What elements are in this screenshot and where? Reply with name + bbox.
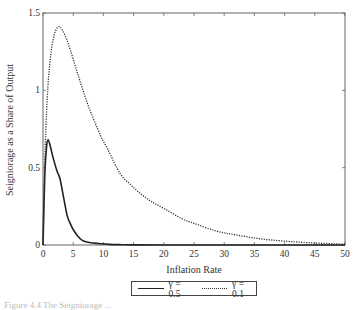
solid-line-swatch-icon	[138, 288, 164, 289]
x-tick-label: 15	[129, 249, 139, 259]
x-tick-label: 5	[71, 249, 76, 259]
dotted-line-swatch-icon	[202, 288, 228, 289]
x-tick-label: 10	[99, 249, 109, 259]
legend-item-gamma-0.1: γ = 0.1	[202, 279, 257, 299]
legend-label: γ = 0.1	[232, 279, 256, 299]
series-gamma-0.5-line	[43, 140, 345, 245]
data-series	[43, 27, 345, 245]
x-tick-label: 40	[280, 249, 290, 259]
legend-item-gamma-0.5: γ = 0.5	[138, 279, 193, 299]
x-tick-label: 0	[41, 249, 46, 259]
x-tick-label: 20	[159, 249, 169, 259]
legend: γ = 0.5 γ = 0.1	[131, 281, 257, 296]
x-tick-label: 50	[340, 249, 350, 259]
x-tick-label: 25	[189, 249, 199, 259]
series-gamma-0.1-line	[43, 27, 345, 245]
plot-frame	[43, 13, 345, 245]
legend-label: γ = 0.5	[169, 279, 193, 299]
y-tick-label: 0.5	[28, 163, 40, 173]
x-tick-label: 35	[250, 249, 260, 259]
x-tick-label: 30	[219, 249, 229, 259]
x-axis-title: Inflation Rate	[166, 264, 222, 275]
plot-area-border	[43, 13, 345, 245]
x-tick-label: 45	[310, 249, 320, 259]
y-tick-label: 0	[35, 240, 40, 250]
y-axis-title: Seigniorage as a Share of Output	[4, 64, 15, 196]
y-tick-label: 1	[35, 85, 40, 95]
figure-caption: Figure 4.4 The Seigniorage ...	[4, 300, 111, 310]
y-tick-label: 1.5	[28, 8, 40, 18]
